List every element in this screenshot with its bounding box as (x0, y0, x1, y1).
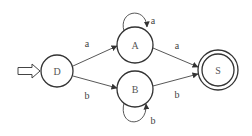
state-a-label: A (131, 40, 139, 51)
edge-d-a-label: a (85, 38, 90, 49)
edge-b-to-s (153, 74, 198, 86)
automaton-diagram: D A B S a b a b a b (0, 0, 252, 136)
edge-d-to-a (73, 46, 117, 66)
state-a: A (117, 27, 153, 63)
state-s-accepting: S (198, 50, 238, 90)
state-d-label: D (53, 66, 60, 77)
edge-a-a-label: a (151, 15, 156, 26)
start-arrow-icon (18, 64, 40, 78)
state-s-label: S (215, 65, 221, 76)
state-b-label: B (132, 84, 139, 95)
state-d: D (41, 55, 73, 87)
state-b: B (117, 71, 153, 107)
edge-b-s-label: b (175, 89, 180, 100)
edge-d-to-b (73, 76, 117, 88)
edge-a-s-label: a (175, 40, 180, 51)
edge-b-b-label: b (151, 115, 156, 126)
edge-d-b-label: b (85, 90, 90, 101)
